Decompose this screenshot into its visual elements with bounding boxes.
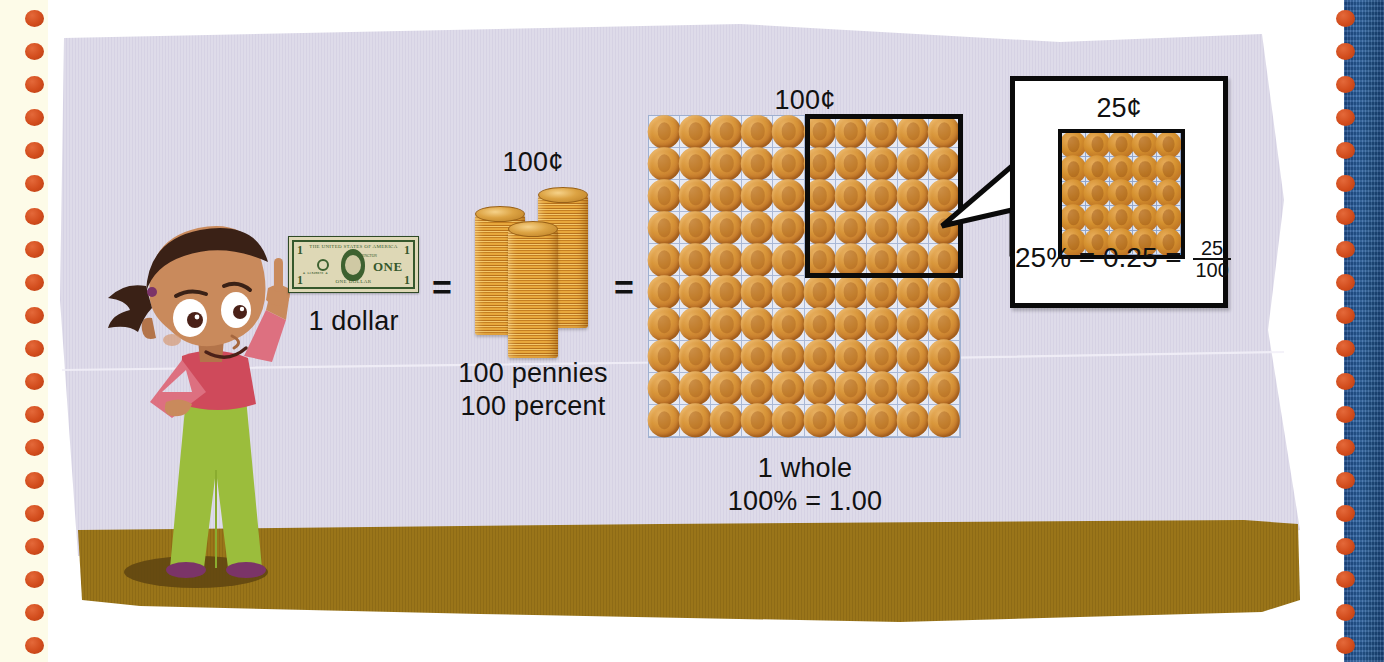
punch-hole-dot [1336, 274, 1355, 291]
illustration-stage: THE UNITED STATES OF AMERICA WASHINGTON … [0, 0, 1384, 662]
penny-icon [772, 211, 805, 245]
penny-cell [929, 341, 960, 373]
punch-hole-dot [25, 76, 44, 93]
penny-icon [772, 339, 805, 373]
penny-icon [865, 372, 898, 406]
penny-cell [680, 309, 711, 341]
quarter-penny-cell [1157, 133, 1181, 157]
bill-portrait [341, 249, 365, 281]
penny-cell [711, 180, 742, 212]
punch-hole-dot [1336, 571, 1355, 588]
penny-cell [680, 341, 711, 373]
penny-icon [648, 179, 681, 213]
callout-percent: 25% [1015, 242, 1071, 273]
penny-cell [711, 405, 742, 437]
punch-hole-dot [1336, 142, 1355, 159]
penny-icon [741, 339, 774, 373]
penny-icon [679, 211, 712, 245]
penny-icon [710, 243, 743, 277]
quarter-penny-cell [1133, 206, 1157, 230]
penny-cell [711, 148, 742, 180]
bill-corner-3: 1 [294, 273, 306, 287]
penny-cell [773, 341, 804, 373]
penny-cell [929, 373, 960, 405]
penny-icon [648, 115, 681, 149]
quarter-penny-cell [1157, 157, 1181, 181]
penny-icon [741, 372, 774, 406]
penny-icon [928, 339, 961, 373]
penny-icon [710, 147, 743, 181]
penny-cell [773, 373, 804, 405]
penny-icon [803, 372, 836, 406]
left-dot-column [18, 0, 48, 662]
penny-icon [741, 211, 774, 245]
quarter-penny-cell [1110, 206, 1134, 230]
penny-stack-front-top [508, 221, 558, 237]
penny-cell [836, 373, 867, 405]
penny-icon [803, 404, 836, 438]
penny-cell [649, 116, 680, 148]
penny-cell [898, 276, 929, 308]
punch-hole-dot [25, 637, 44, 654]
equals-sign-2: = [614, 268, 634, 307]
stacks-top-label: 100¢ [468, 146, 598, 179]
punch-hole-dot [1336, 505, 1355, 522]
penny-cell [680, 244, 711, 276]
dollar-caption: 1 dollar [288, 305, 419, 338]
penny-cell [836, 276, 867, 308]
penny-icon [710, 275, 743, 309]
penny-icon [834, 339, 867, 373]
punch-hole-dot [1336, 43, 1355, 60]
penny-cell [929, 309, 960, 341]
quarter-penny-cell [1110, 157, 1134, 181]
penny-icon [710, 307, 743, 341]
punch-hole-dot [25, 307, 44, 324]
penny-cell [649, 373, 680, 405]
penny-icon [772, 115, 805, 149]
penny-icon [741, 115, 774, 149]
penny-cell [773, 309, 804, 341]
penny-cell [680, 373, 711, 405]
penny-cell [867, 373, 898, 405]
penny-cell [711, 212, 742, 244]
penny-cell [742, 116, 773, 148]
penny-icon [710, 372, 743, 406]
punch-hole-dot [1336, 109, 1355, 126]
penny-icon [679, 339, 712, 373]
penny-cell [773, 180, 804, 212]
penny-cell [711, 341, 742, 373]
penny-cell [649, 309, 680, 341]
penny-icon [865, 307, 898, 341]
quarter-penny-cell [1110, 182, 1134, 206]
penny-stack-front [508, 230, 558, 358]
penny-cell [898, 309, 929, 341]
penny-cell [711, 244, 742, 276]
penny-icon [741, 179, 774, 213]
quarter-penny-cell [1133, 182, 1157, 206]
punch-hole-dot [1336, 76, 1355, 93]
punch-hole-dot [25, 175, 44, 192]
punch-hole-dot [25, 505, 44, 522]
bill-bottom-text: ONE DOLLAR [289, 279, 418, 284]
punch-hole-dot [25, 571, 44, 588]
penny-icon [928, 372, 961, 406]
penny-icon [834, 372, 867, 406]
bill-denomination-text: ONE [373, 259, 403, 275]
penny-cell [805, 276, 836, 308]
penny-cell [836, 341, 867, 373]
penny-icon [772, 307, 805, 341]
penny-cell [649, 244, 680, 276]
penny-cell [680, 148, 711, 180]
penny-icon [928, 307, 961, 341]
penny-cell [805, 341, 836, 373]
pennies-caption-1: 100 pennies [418, 357, 648, 390]
penny-cell [773, 212, 804, 244]
penny-cell [929, 405, 960, 437]
penny-cell [742, 212, 773, 244]
penny-icon [897, 307, 930, 341]
punch-hole-dot [1336, 406, 1355, 423]
bill-seal-icon [317, 259, 329, 271]
penny-cell [742, 244, 773, 276]
quarter-penny-cell [1062, 182, 1086, 206]
quarter-penny-cell [1062, 133, 1086, 157]
